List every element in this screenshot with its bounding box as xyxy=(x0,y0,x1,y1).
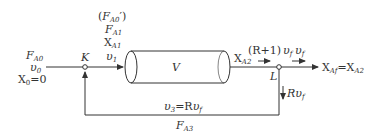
total-outlet-flow-label: (R+1)υf xyxy=(248,44,294,58)
inlet-volumetric-label: υ1 xyxy=(106,50,117,64)
product-conversion-label: XAf=XA2 xyxy=(322,61,364,75)
split-point-node xyxy=(277,65,282,70)
inlet-fresh-feed-label: (FA0′) xyxy=(98,10,126,24)
feed-conversion-label: X0=0 xyxy=(18,73,47,87)
recycle-down-label: Rυf xyxy=(286,87,306,101)
mix-point-node xyxy=(83,65,88,70)
mix-point-label: K xyxy=(80,51,90,64)
inlet-conversion-label: XA1 xyxy=(104,36,121,50)
recycle-volumetric-label: υ3=Rυf xyxy=(164,100,203,114)
recycle-flow-label: FA3 xyxy=(175,119,194,133)
split-point-label: L xyxy=(269,70,277,83)
reactor-volume-label: V xyxy=(172,61,181,74)
recycle-reactor-diagram: FA0 υ0 X0=0 K (FA0′) FA1 XA1 υ1 V XA2 (R… xyxy=(0,0,377,140)
inlet-flow-label: FA1 xyxy=(104,23,122,37)
product-volumetric-label: υf xyxy=(295,44,306,58)
